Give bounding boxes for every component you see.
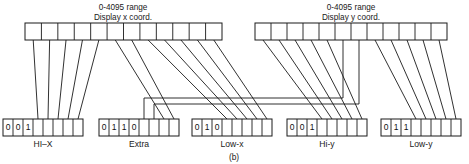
bit-cell-hi-x-2: 0 xyxy=(16,122,21,132)
wire-x-9 xyxy=(165,40,237,119)
bit-cell-low-y-1: 0 xyxy=(384,122,389,132)
display-x-title-line2: Display x coord. xyxy=(94,13,152,22)
diagram-canvas: 0-4095 range Display x coord. 0-4095 ran… xyxy=(0,0,469,164)
bit-cell-hi-y-3: 1 xyxy=(310,122,315,132)
display-y-title-line1: 0-4095 range xyxy=(327,3,376,12)
wire-x-2 xyxy=(48,40,50,119)
wire-x-6 xyxy=(115,40,164,119)
wire-y-11 xyxy=(423,40,446,119)
register-label-hi-x: HI–X xyxy=(33,139,52,149)
register-layer: 0010110010001011 xyxy=(3,23,461,136)
wire-layer xyxy=(33,40,456,119)
wire-y-10 xyxy=(407,40,436,119)
top-register-titles: 0-4095 range Display x coord. 0-4095 ran… xyxy=(94,3,380,22)
wire-x-1 xyxy=(33,40,38,119)
wire-y-9 xyxy=(391,40,426,119)
wire-y-1 xyxy=(263,40,322,119)
register-label-low-x: Low-x xyxy=(221,139,245,149)
bit-cell-extra-1: 0 xyxy=(102,122,107,132)
wire-x-5 xyxy=(78,40,99,119)
register-hi-y: 001 xyxy=(287,119,367,136)
register-label-extra: Extra xyxy=(129,139,149,149)
wire-x-8 xyxy=(148,40,227,119)
register-low-y: 011 xyxy=(381,119,461,136)
wire-y-5 xyxy=(327,40,362,119)
bit-cell-low-y-3: 1 xyxy=(404,122,409,132)
wire-x-10 xyxy=(181,40,247,119)
register-label-hi-y: Hi-y xyxy=(319,139,335,149)
register-display-x xyxy=(25,23,222,40)
wire-y-8 xyxy=(375,40,416,119)
wire-x-12 xyxy=(214,40,267,119)
wire-y-7 xyxy=(154,40,359,119)
register-hi-x: 001 xyxy=(3,119,83,136)
wire-x-4 xyxy=(68,40,82,119)
bit-cell-hi-y-2: 0 xyxy=(300,122,305,132)
bit-cell-extra-4: 0 xyxy=(132,122,137,132)
wire-y-12 xyxy=(439,40,456,119)
register-label-layer: HI–XExtraLow-xHi-yLow-y xyxy=(33,139,433,149)
register-extra: 0110 xyxy=(99,119,179,136)
bit-cell-extra-2: 1 xyxy=(112,122,117,132)
bit-cell-hi-y-1: 0 xyxy=(290,122,295,132)
bit-cell-low-x-2: 1 xyxy=(205,122,210,132)
wire-y-4 xyxy=(311,40,352,119)
display-y-title-line2: Display y coord. xyxy=(322,13,380,22)
figure-caption: (b) xyxy=(229,152,239,162)
bit-cell-hi-x-3: 1 xyxy=(26,122,31,132)
wire-y-2 xyxy=(279,40,332,119)
register-display-y xyxy=(255,23,447,40)
wire-x-3 xyxy=(58,40,66,119)
bit-cell-low-y-2: 1 xyxy=(394,122,399,132)
wire-x-7 xyxy=(132,40,174,119)
bit-cell-extra-3: 1 xyxy=(122,122,127,132)
display-x-title-line1: 0-4095 range xyxy=(99,3,148,12)
wire-y-3 xyxy=(295,40,342,119)
bit-cell-low-x-1: 0 xyxy=(195,122,200,132)
wire-x-11 xyxy=(197,40,257,119)
bit-cell-low-x-3: 0 xyxy=(215,122,220,132)
bit-routing-diagram: 0-4095 range Display x coord. 0-4095 ran… xyxy=(0,0,469,164)
register-label-low-y: Low-y xyxy=(410,139,434,149)
bit-cell-hi-x-1: 0 xyxy=(6,122,11,132)
register-low-x: 010 xyxy=(192,119,272,136)
